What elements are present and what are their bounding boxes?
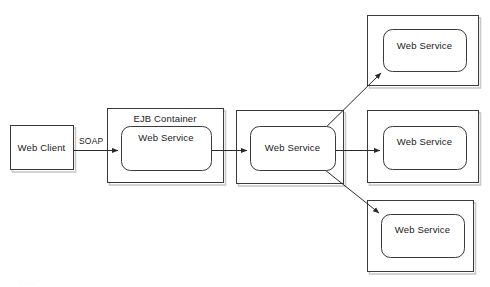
node-label-mid-right-web-service: Web Service bbox=[383, 137, 466, 147]
node-bottom-right-web-service bbox=[382, 215, 465, 258]
node-label-ejb-web-service: Web Service bbox=[121, 133, 211, 143]
node-label-top-right-web-service: Web Service bbox=[383, 41, 466, 51]
edge-label-soap: SOAP bbox=[79, 136, 103, 146]
node-label-ejb-container: EJB Container bbox=[107, 113, 223, 124]
bottom-edge-artifact: SOAP bbox=[18, 278, 40, 287]
diagram-canvas: Web Client EJB Container Web Service Web… bbox=[0, 0, 490, 287]
node-label-mid-web-service: Web Service bbox=[250, 143, 335, 153]
node-label-bottom-right-web-service: Web Service bbox=[381, 225, 464, 235]
node-mid-right-web-service bbox=[384, 127, 467, 170]
node-label-web-client: Web Client bbox=[10, 143, 73, 153]
